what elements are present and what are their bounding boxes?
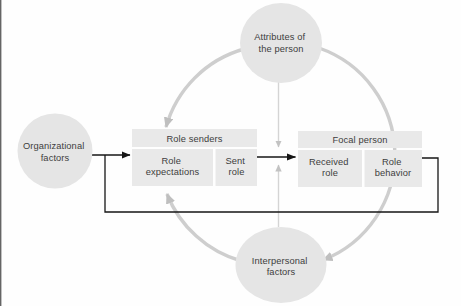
attributes-label-line1: Attributes of bbox=[254, 32, 305, 42]
received-role-line1: Received bbox=[309, 157, 349, 167]
role-expectations-line2: expectations bbox=[146, 167, 200, 177]
role-episode-diagram: Attributes of the person Organizational … bbox=[0, 0, 461, 306]
role-behavior-line1: Role bbox=[382, 157, 402, 167]
cycle-arrow-bottom-left bbox=[167, 194, 241, 261]
role-behavior-line2: behavior bbox=[375, 168, 411, 178]
organizational-label-line1: Organizational bbox=[23, 141, 84, 151]
attributes-label-line2: the person bbox=[259, 44, 304, 54]
scan-edge-line bbox=[0, 0, 1, 306]
diagram-canvas: Attributes of the person Organizational … bbox=[0, 0, 461, 306]
organizational-label-line2: factors bbox=[41, 153, 70, 163]
organizational-node bbox=[18, 114, 93, 189]
role-senders-title: Role senders bbox=[167, 134, 223, 144]
attributes-label: Attributes of the person bbox=[254, 32, 308, 54]
cycle-arrow-top-left bbox=[166, 49, 244, 127]
interpersonal-label-line1: Interpersonal bbox=[252, 256, 308, 266]
sent-role-line2: role bbox=[229, 167, 245, 177]
sent-role-label: Sent role bbox=[225, 156, 247, 178]
role-expectations-line1: Role bbox=[161, 156, 181, 166]
sent-role-line1: Sent bbox=[225, 156, 245, 166]
interpersonal-label-line2: factors bbox=[267, 267, 296, 277]
focal-person-title: Focal person bbox=[333, 135, 388, 145]
received-role-line2: role bbox=[322, 168, 338, 178]
